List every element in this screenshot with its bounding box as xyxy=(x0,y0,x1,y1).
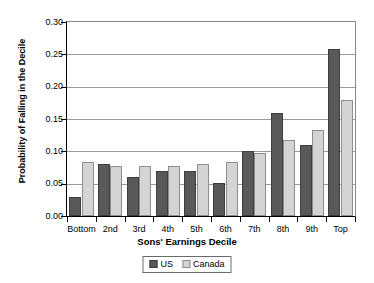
bar-group xyxy=(269,22,298,216)
y-tick-label: 0.05 xyxy=(33,179,63,188)
bar-chart-figure: Probability of Falling in the Decile 0.0… xyxy=(0,0,374,283)
x-tick-mark xyxy=(182,217,183,222)
x-tick-mark xyxy=(153,217,154,222)
x-axis-title: Sons' Earnings Decile xyxy=(0,236,374,247)
bar-group xyxy=(153,22,182,216)
legend-label-us: US xyxy=(160,259,173,269)
x-tick-label: 6th xyxy=(211,224,240,234)
bar-group xyxy=(211,22,240,216)
bar-us-8th xyxy=(271,113,283,216)
x-tick-label: 5th xyxy=(182,224,211,234)
bar-us-4th xyxy=(156,171,168,216)
bar-canada-8th xyxy=(283,140,295,216)
bar-group xyxy=(67,22,96,216)
bar-group xyxy=(297,22,326,216)
y-tick-label: 0.10 xyxy=(33,147,63,156)
bar-group xyxy=(240,22,269,216)
bars-layer xyxy=(67,22,355,216)
bar-us-5th xyxy=(184,171,196,216)
bar-us-top xyxy=(328,49,340,216)
canada-swatch-icon xyxy=(182,260,190,268)
x-tick-mark xyxy=(67,217,68,222)
x-tick-mark xyxy=(269,217,270,222)
x-tick-label: Top xyxy=(326,224,355,234)
x-tick-mark xyxy=(240,217,241,222)
legend-item-canada: Canada xyxy=(182,259,225,269)
x-tick-label: 4th xyxy=(153,224,182,234)
legend-item-us: US xyxy=(149,259,173,269)
chart-legend: US Canada xyxy=(142,256,231,273)
bar-us-9th xyxy=(300,145,312,216)
bar-canada-5th xyxy=(197,164,209,216)
bar-us-6th xyxy=(213,183,225,216)
x-tick-label: 9th xyxy=(297,224,326,234)
x-tick-mark xyxy=(96,217,97,222)
x-tick-label: 3rd xyxy=(125,224,154,234)
x-tick-label: 8th xyxy=(269,224,298,234)
bar-us-2nd xyxy=(98,164,110,216)
bar-us-3rd xyxy=(127,177,139,216)
y-axis-title: Probability of Falling in the Decile xyxy=(17,11,27,211)
x-tick-mark xyxy=(211,217,212,222)
y-tick-label: 0.25 xyxy=(33,50,63,59)
bar-group xyxy=(96,22,125,216)
bar-us-bottom xyxy=(69,197,81,216)
bar-group xyxy=(125,22,154,216)
bar-group xyxy=(182,22,211,216)
bar-canada-4th xyxy=(168,166,180,216)
x-tick-mark xyxy=(355,217,356,222)
bar-canada-2nd xyxy=(110,166,122,216)
x-tick-label: 2nd xyxy=(96,224,125,234)
legend-label-canada: Canada xyxy=(193,259,225,269)
x-tick-mark xyxy=(297,217,298,222)
y-tick-label: 0.15 xyxy=(33,115,63,124)
y-tick-label: 0.30 xyxy=(33,18,63,27)
bar-canada-top xyxy=(341,100,353,216)
us-swatch-icon xyxy=(149,260,157,268)
bar-canada-6th xyxy=(226,162,238,216)
bar-us-7th xyxy=(242,151,254,216)
bar-canada-7th xyxy=(254,153,266,216)
bar-canada-3rd xyxy=(139,166,151,216)
x-tick-label: 7th xyxy=(240,224,269,234)
y-tick-label: 0.20 xyxy=(33,82,63,91)
bar-canada-bottom xyxy=(82,162,94,216)
bar-group xyxy=(326,22,355,216)
y-tick-label: 0.00 xyxy=(33,212,63,221)
bar-canada-9th xyxy=(312,130,324,216)
x-tick-mark xyxy=(326,217,327,222)
x-tick-label: Bottom xyxy=(67,224,96,234)
x-tick-mark xyxy=(125,217,126,222)
